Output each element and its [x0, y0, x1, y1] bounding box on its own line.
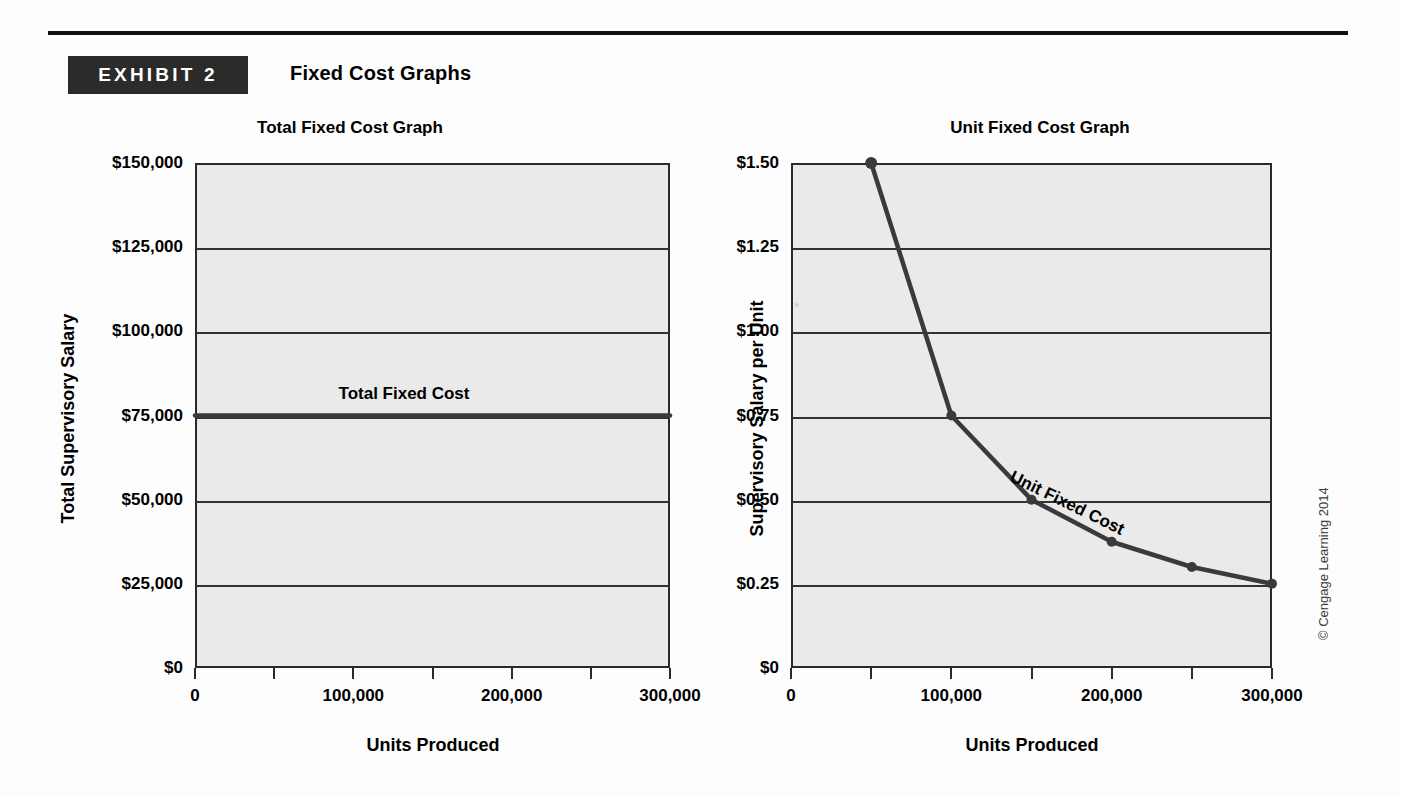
x-tick [790, 668, 792, 679]
gridline [197, 501, 668, 503]
y-tick-label: $50,000 [55, 490, 183, 510]
x-tick-label: 300,000 [1241, 686, 1302, 706]
x-tick [1031, 668, 1033, 679]
y-tick-label: $75,000 [55, 406, 183, 426]
plot-area-total [195, 163, 670, 668]
gridline [793, 585, 1270, 587]
total-fixed-cost-chart: Total Fixed Cost Graph Units Produced To… [0, 0, 700, 796]
copyright-notice: © Cengage Learning 2014 [1316, 487, 1331, 640]
y-tick-label: $0.50 [651, 490, 779, 510]
y-tick-label: $1.50 [651, 153, 779, 173]
exhibit-figure: EXHIBIT 2 Fixed Cost Graphs Total Fixed … [0, 0, 1401, 796]
y-tick-label: $25,000 [55, 574, 183, 594]
gridline [793, 417, 1270, 419]
gridline [793, 501, 1270, 503]
unit-fixed-cost-chart: Unit Fixed Cost Graph Units Produced Sup… [640, 0, 1340, 796]
gridline [197, 332, 668, 334]
x-tick [1111, 668, 1113, 679]
y-tick-label: $150,000 [55, 153, 183, 173]
x-axis-title-total: Units Produced [366, 735, 499, 756]
chart-title-total: Total Fixed Cost Graph [0, 118, 700, 138]
y-tick-label: $0 [55, 658, 183, 678]
x-tick [194, 668, 196, 679]
x-tick [273, 668, 275, 679]
gridline [197, 417, 668, 419]
chart-title-unit: Unit Fixed Cost Graph [790, 118, 1290, 138]
x-tick-label: 200,000 [1081, 686, 1142, 706]
x-axis-title-unit: Units Produced [965, 735, 1098, 756]
x-tick-label: 0 [190, 686, 199, 706]
y-tick-label: $0.25 [651, 574, 779, 594]
series-annotation: Total Fixed Cost [339, 384, 470, 404]
x-tick-label: 0 [786, 686, 795, 706]
x-tick [950, 668, 952, 679]
y-tick-label: $0 [651, 658, 779, 678]
x-tick [352, 668, 354, 679]
x-tick [1191, 668, 1193, 679]
x-tick-label: 100,000 [323, 686, 384, 706]
x-tick [590, 668, 592, 679]
x-tick-label: 200,000 [481, 686, 542, 706]
y-tick-label: $0.75 [651, 406, 779, 426]
plot-area-unit [791, 163, 1272, 668]
x-tick [432, 668, 434, 679]
gridline [793, 332, 1270, 334]
y-tick-label: $125,000 [55, 237, 183, 257]
y-tick-label: $1.00 [651, 321, 779, 341]
gridline [197, 585, 668, 587]
gridline [197, 248, 668, 250]
x-tick-label: 100,000 [921, 686, 982, 706]
x-tick [1271, 668, 1273, 679]
gridline [793, 248, 1270, 250]
x-tick [870, 668, 872, 679]
x-tick [511, 668, 513, 679]
scan-speck [795, 303, 799, 307]
y-tick-label: $1.25 [651, 237, 779, 257]
y-tick-label: $100,000 [55, 321, 183, 341]
